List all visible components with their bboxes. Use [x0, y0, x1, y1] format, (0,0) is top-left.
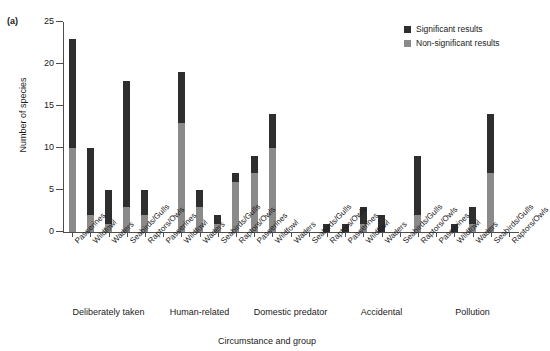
bar-segment-significant [251, 156, 258, 173]
y-axis-tick-label: 25 [29, 17, 54, 26]
bar-segment-significant [87, 148, 94, 215]
bar-segment-significant [196, 190, 203, 207]
legend-item: Non-significant results [404, 38, 500, 48]
legend-swatch-significant [404, 26, 411, 33]
bar [69, 39, 76, 232]
bar-segment-significant [232, 173, 239, 181]
bar-segment-significant [487, 114, 494, 173]
y-axis-tick-label: 20 [29, 59, 54, 68]
x-axis-title: Circumstance and group [0, 336, 534, 346]
bar-segment-significant [178, 72, 185, 122]
plot-area: 0510152025 [63, 22, 518, 232]
x-axis-tick [72, 232, 73, 237]
legend-swatch-non_significant [404, 40, 411, 47]
bar-segment-significant [269, 114, 276, 148]
y-axis-tick [56, 21, 63, 22]
bar-segment-significant [123, 81, 130, 207]
y-axis-tick-label: 0 [29, 227, 54, 236]
y-axis-tick [56, 147, 63, 148]
bar [487, 114, 494, 232]
y-axis-title: Number of species [18, 40, 28, 190]
legend-label: Significant results [416, 24, 483, 34]
panel-letter: (a) [7, 16, 18, 26]
y-axis-tick-label: 15 [29, 101, 54, 110]
bar-segment-significant [141, 190, 148, 215]
legend: Significant resultsNon-significant resul… [404, 24, 500, 52]
bar-segment-significant [69, 39, 76, 148]
legend-label: Non-significant results [416, 38, 500, 48]
bar [123, 81, 130, 232]
y-axis-tick [56, 105, 63, 106]
bar-segment-significant [414, 156, 421, 215]
y-axis-tick-label: 5 [29, 185, 54, 194]
y-axis-tick [56, 63, 63, 64]
x-axis-group-label: Pollution [413, 307, 533, 317]
y-axis-tick [56, 189, 63, 190]
y-axis-tick-label: 10 [29, 143, 54, 152]
bar-segment-non-significant [69, 148, 76, 232]
y-axis-tick [56, 231, 63, 232]
legend-item: Significant results [404, 24, 500, 34]
